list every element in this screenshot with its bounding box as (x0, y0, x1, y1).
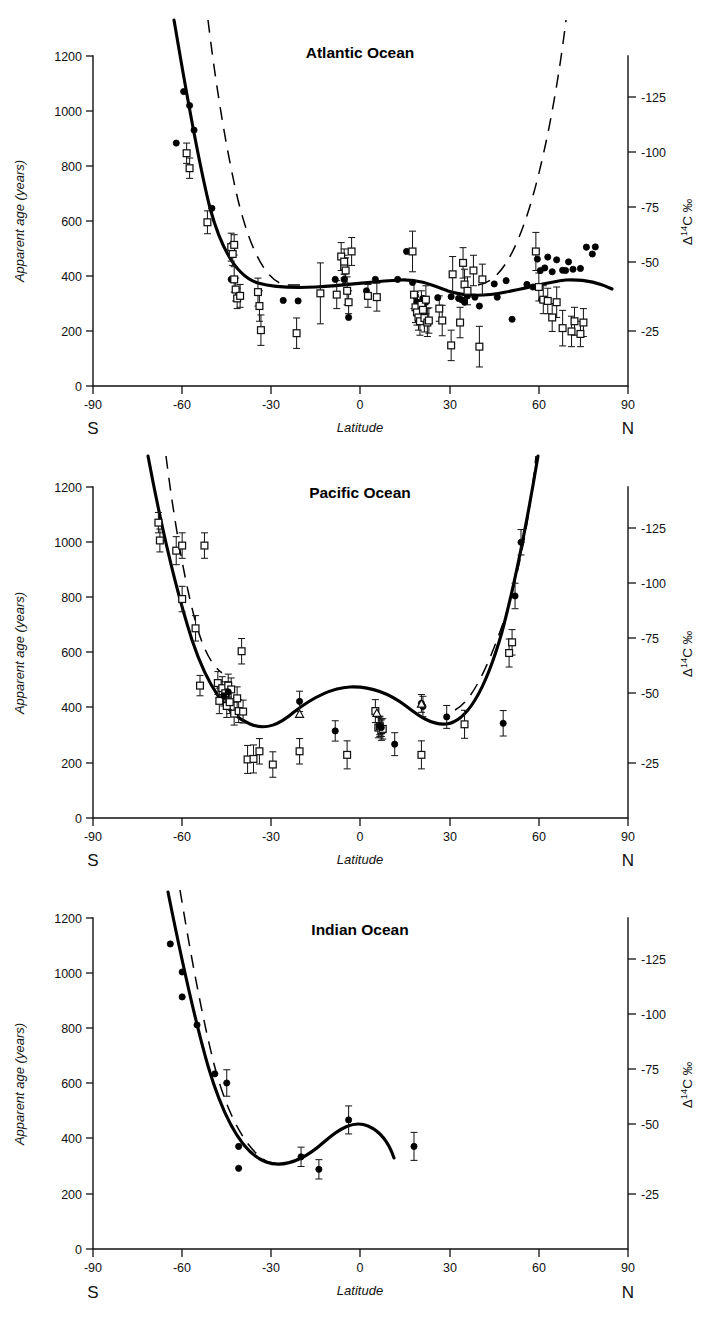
x-tick--60: -60 (173, 1261, 191, 1275)
data-point-filled-circle (577, 265, 583, 271)
axis-frame (93, 918, 628, 1249)
data-point-filled-circle (524, 281, 530, 287)
data-point-open-square (255, 289, 262, 296)
data-point-filled-circle (534, 256, 540, 262)
x-tick-0: 0 (357, 1261, 364, 1275)
data-point-open-square (448, 342, 455, 349)
data-point-filled-circle (500, 720, 506, 726)
data-point-open-square (317, 290, 324, 297)
data-point-open-square (192, 625, 199, 632)
data-point-open-square (226, 699, 233, 706)
x-tick-0: 0 (357, 398, 364, 412)
data-point-filled-circle (296, 698, 302, 704)
x-tick--90: -90 (84, 1261, 102, 1275)
x-tick-30: 30 (443, 1261, 457, 1275)
data-point-filled-circle (181, 88, 187, 94)
y2-tick-50: -50 (641, 687, 659, 701)
svg-text:Δ14C ‰: Δ14C ‰ (678, 198, 695, 245)
panel-title-group: Atlantic Ocean (306, 44, 415, 61)
data-point-filled-circle (435, 295, 441, 301)
north-pole-label: N (622, 851, 634, 870)
x-axis-ticks: -90 -60 -30 0 30 60 90 (84, 818, 635, 844)
data-point-open-square (341, 258, 348, 265)
data-point-filled-circle (316, 1166, 322, 1172)
data-point-filled-circle (592, 244, 598, 250)
data-point-filled-circle (444, 714, 450, 720)
data-point-filled-circle (179, 994, 185, 1000)
data-point-filled-circle (549, 269, 555, 275)
data-point-filled-circle (545, 254, 551, 260)
data-point-open-square (373, 294, 380, 301)
data-point-open-square (470, 267, 477, 274)
x-tick--90: -90 (84, 830, 102, 844)
data-point-filled-circle (332, 276, 338, 282)
y-axis-title: Apparent age (years) (12, 160, 27, 283)
north-pole-label: N (622, 419, 634, 438)
data-point-filled-circle (583, 244, 589, 250)
y-axis-right-ticks: -125 -100 -75 -50 -25 (628, 953, 666, 1202)
y-tick-400: 400 (61, 1132, 82, 1146)
data-point-open-square (155, 519, 162, 526)
data-point-open-square (422, 296, 429, 303)
data-markers-group (173, 88, 598, 350)
data-point-open-square (156, 537, 163, 544)
data-point-open-square (449, 271, 456, 278)
data-point-open-square (234, 695, 241, 702)
data-point-open-square (293, 330, 300, 337)
y-tick-0: 0 (75, 1243, 82, 1257)
y-tick-1000: 1000 (54, 967, 82, 981)
data-point-open-square (479, 276, 486, 283)
y2-tick-100: -100 (641, 1008, 666, 1022)
x-tick-30: 30 (443, 830, 457, 844)
data-point-open-square (461, 721, 468, 728)
y-tick-800: 800 (61, 591, 82, 605)
data-point-open-square (344, 287, 351, 294)
data-point-open-square (409, 248, 416, 255)
x-tick-60: 60 (532, 830, 546, 844)
data-point-filled-circle (236, 1165, 242, 1171)
data-point-open-square (577, 331, 584, 338)
delta-superscript: 14 (678, 658, 689, 669)
data-point-open-square (460, 259, 467, 266)
error-bars-group (183, 143, 587, 367)
data-point-open-square (240, 708, 247, 715)
svg-text:Δ14C ‰: Δ14C ‰ (678, 630, 695, 677)
y-tick-200: 200 (61, 757, 82, 771)
x-axis-ticks: -90 -60 -30 0 30 60 90 (84, 1249, 635, 1275)
x-tick-60: 60 (532, 1261, 546, 1275)
data-point-open-square (258, 327, 265, 334)
data-point-open-square (345, 299, 352, 306)
data-point-open-square (204, 219, 211, 226)
panel-atlantic-ocean: Atlantic Ocean 1200 1000 800 600 400 (0, 0, 711, 440)
data-point-filled-circle (491, 281, 497, 287)
data-point-open-square (229, 251, 236, 258)
data-point-filled-circle (191, 127, 197, 133)
delta-rest: C ‰ (680, 198, 695, 226)
data-point-open-square (476, 343, 483, 350)
y-tick-1000: 1000 (54, 105, 82, 119)
data-point-open-square (296, 748, 303, 755)
data-point-open-square (237, 292, 244, 299)
data-point-open-square (436, 305, 443, 312)
data-point-filled-circle (298, 1154, 304, 1160)
data-point-open-square (544, 298, 551, 305)
data-point-open-square (535, 284, 542, 291)
y2-tick-125: -125 (641, 91, 666, 105)
data-point-open-square (532, 248, 539, 255)
delta-rest: C ‰ (680, 1061, 695, 1089)
y-tick-1200: 1200 (54, 50, 82, 64)
y-axis-left-ticks: 1200 1000 800 600 400 200 0 (54, 50, 93, 394)
data-point-filled-circle (194, 1022, 200, 1028)
data-point-filled-circle (589, 251, 595, 257)
y-tick-400: 400 (61, 270, 82, 284)
x-axis-title: Latitude (337, 1283, 383, 1298)
x-axis-title: Latitude (337, 420, 383, 435)
data-point-open-square (464, 287, 471, 294)
delta-symbol: Δ (680, 236, 695, 245)
data-point-open-square (348, 248, 355, 255)
y2-axis-title: Δ14C ‰ (678, 198, 695, 245)
data-point-filled-circle (554, 257, 560, 263)
data-point-open-square (580, 319, 587, 326)
data-point-open-square (506, 650, 513, 657)
y-tick-1200: 1200 (54, 912, 82, 926)
